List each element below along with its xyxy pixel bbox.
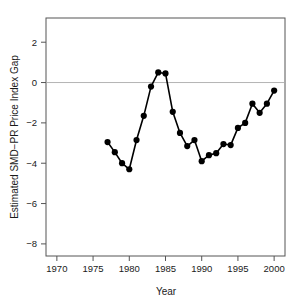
data-point [249, 101, 255, 107]
data-point [191, 137, 197, 143]
data-point [228, 142, 234, 148]
data-point [177, 130, 183, 136]
data-point [126, 166, 132, 172]
y-tick-label: −2 [26, 117, 37, 128]
y-axis-tick-labels: 20−2−4−6−8 [26, 37, 37, 250]
data-point [155, 69, 161, 75]
data-point [170, 109, 176, 115]
y-tick-label: 2 [32, 37, 37, 48]
x-axis-tick-labels: 1970197519801985199019952000 [46, 263, 284, 274]
data-point [148, 83, 154, 89]
data-point [184, 143, 190, 149]
x-tick-label: 2000 [264, 263, 285, 274]
data-point [112, 149, 118, 155]
x-axis-ticks [57, 256, 274, 261]
plot-frame [46, 18, 285, 256]
y-tick-label: 0 [32, 77, 37, 88]
data-point [162, 70, 168, 76]
data-point [264, 101, 270, 107]
data-point [271, 88, 277, 94]
x-tick-label: 1985 [155, 263, 176, 274]
data-point [242, 120, 248, 126]
data-series-line [108, 72, 275, 169]
data-point [199, 158, 205, 164]
line-chart-plot: 20−2−4−6−8 1970197519801985199019952000 [0, 0, 304, 307]
data-point [104, 139, 110, 145]
data-point [206, 152, 212, 158]
data-point [257, 110, 263, 116]
x-tick-label: 1975 [83, 263, 104, 274]
y-tick-label: −6 [26, 198, 37, 209]
y-axis-ticks [41, 42, 46, 244]
data-point [133, 137, 139, 143]
x-tick-label: 1980 [119, 263, 140, 274]
x-tick-label: 1995 [227, 263, 248, 274]
data-point [235, 125, 241, 131]
y-tick-label: −8 [26, 238, 37, 249]
data-point [119, 160, 125, 166]
data-series-points [104, 69, 277, 172]
x-tick-label: 1990 [191, 263, 212, 274]
chart-figure: 20−2−4−6−8 1970197519801985199019952000 … [0, 0, 304, 307]
data-point [141, 113, 147, 119]
y-tick-label: −4 [26, 158, 37, 169]
data-point [213, 150, 219, 156]
x-tick-label: 1970 [46, 263, 67, 274]
data-point [220, 141, 226, 147]
